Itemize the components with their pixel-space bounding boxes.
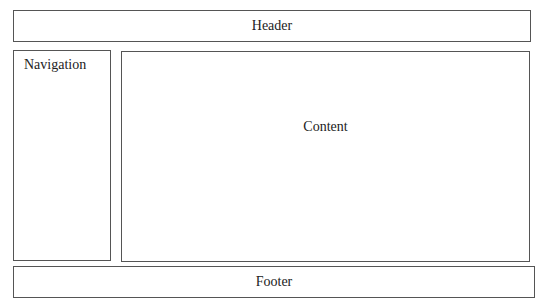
footer-label: Footer bbox=[14, 274, 534, 290]
footer-region: Footer bbox=[13, 266, 535, 298]
navigation-region: Navigation bbox=[13, 50, 111, 261]
header-label: Header bbox=[14, 18, 530, 34]
content-region: Content bbox=[121, 51, 530, 262]
content-label: Content bbox=[122, 119, 529, 135]
header-region: Header bbox=[13, 10, 531, 42]
navigation-label: Navigation bbox=[24, 57, 86, 73]
